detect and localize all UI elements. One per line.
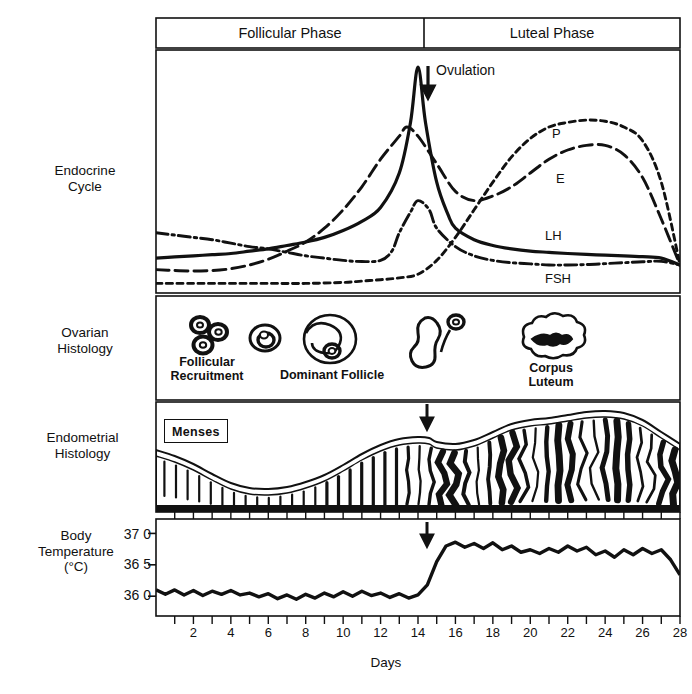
x-tick-label: 20 (514, 626, 546, 641)
endometrial-gland (488, 443, 490, 504)
corpus-luteum (523, 313, 585, 358)
x-tick-label: 12 (365, 626, 397, 641)
curve-label-p: P (552, 127, 572, 142)
temperature-curve (156, 542, 680, 599)
row-label-line2: Histology (55, 446, 111, 461)
row-label-line2: Cycle (68, 179, 102, 194)
x-tick-label: 24 (589, 626, 621, 641)
ovarian-label-line2: Recruitment (171, 369, 244, 383)
ovulation-arrow-temperature (422, 522, 433, 546)
y-tick-label-37: 37 0 (95, 526, 151, 542)
menses-label: Menses (172, 425, 220, 439)
row-label-line3: (°C) (64, 559, 88, 574)
endocrine-curves (156, 67, 680, 283)
ovarian-label-line2: Luteum (528, 375, 573, 389)
follicle-recruitment-cluster (191, 317, 227, 354)
row-label-line1: Ovarian (61, 325, 108, 340)
x-tick-label: 18 (477, 626, 509, 641)
x-axis-title: Days (346, 655, 426, 671)
row-label-line1: Endocrine (55, 163, 116, 178)
x-tick-label: 6 (252, 626, 284, 641)
ovulation-label: Ovulation (436, 62, 546, 78)
x-tick-label: 22 (552, 626, 584, 641)
x-tick-label: 2 (177, 626, 209, 641)
hormone-curve-lh (156, 67, 680, 265)
ovulation-arrow-endometrial (422, 404, 433, 429)
x-tick-label: 10 (327, 626, 359, 641)
ovarian-label-line1: Corpus (529, 361, 573, 375)
x-tick-label: 14 (402, 626, 434, 641)
ruptured-follicle (410, 315, 464, 367)
endometrial-gland (407, 447, 410, 504)
row-label-endocrine-cycle: Endocrine Cycle (20, 163, 150, 194)
menses-label-box: Menses (164, 419, 228, 443)
curve-label-e: E (556, 172, 576, 187)
endometrial-histology-drawing (156, 411, 680, 512)
ovarian-label-dominant-follicle: Dominant Follicle (262, 368, 402, 382)
phase-label-luteal: Luteal Phase (424, 25, 680, 42)
y-tick-label-365: 36 5 (95, 556, 151, 572)
dominant-follicle (304, 315, 356, 363)
row-label-endometrial-histology: Endometrial Histology (10, 430, 155, 461)
phase-label-follicular: Follicular Phase (156, 25, 424, 42)
ovarian-label-corpus-luteum: Corpus Luteum (505, 361, 597, 389)
hormone-curve-e (156, 127, 680, 271)
y-tick-label-36: 36 0 (95, 587, 151, 603)
endometrial-gland (628, 424, 630, 500)
ovulation-arrow-endocrine (422, 66, 434, 98)
secondary-follicle (250, 325, 280, 351)
x-tick-label: 4 (215, 626, 247, 641)
x-tick-label: 8 (290, 626, 322, 641)
x-tick-label: 28 (664, 626, 692, 641)
row-label-line2: Histology (57, 341, 113, 356)
curve-label-fsh: FSH (545, 272, 581, 287)
curve-label-lh: LH (545, 229, 575, 244)
x-tick-label: 16 (439, 626, 471, 641)
endometrial-gland (558, 425, 560, 500)
endometrial-gland (477, 448, 480, 505)
ovarian-label-line1: Follicular (179, 355, 235, 369)
endometrial-gland (419, 446, 421, 504)
row-label-ovarian-histology: Ovarian Histology (20, 325, 150, 356)
x-tick-label: 26 (627, 626, 659, 641)
row-label-line1: Body (61, 528, 92, 543)
endometrial-gland (546, 427, 549, 501)
panel-frames (156, 18, 680, 616)
endometrial-gland (616, 421, 618, 500)
ovarian-label-follicular-recruitment: Follicular Recruitment (158, 355, 256, 383)
row-label-line1: Endometrial (46, 430, 118, 445)
ovarian-label-line1: Dominant Follicle (280, 368, 384, 382)
